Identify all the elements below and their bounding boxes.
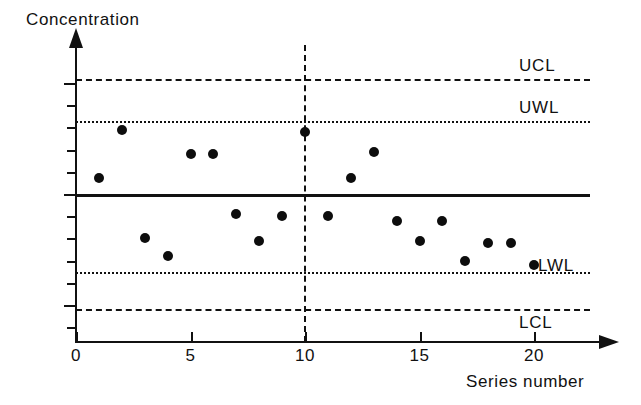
y-tick	[0, 238, 76, 240]
x-axis-line	[75, 341, 603, 343]
x-axis-arrow-icon	[599, 335, 619, 349]
data-point	[208, 149, 218, 159]
y-tick-mark	[64, 83, 76, 85]
y-tick	[0, 105, 76, 107]
x-tick-label: 20	[524, 346, 544, 366]
data-point	[323, 211, 333, 221]
y-tick	[0, 216, 76, 218]
data-point	[163, 251, 173, 261]
limit-line-lwl	[76, 272, 590, 274]
limit-label-lcl: LCL	[519, 313, 553, 333]
y-tick	[0, 261, 76, 263]
y-tick-mark	[64, 305, 76, 307]
x-tick-mark	[76, 332, 78, 342]
data-point	[506, 238, 516, 248]
y-tick: 0	[0, 194, 76, 196]
data-point	[529, 260, 539, 270]
y-tick-mark	[67, 127, 76, 129]
y-tick-mark	[67, 172, 76, 174]
data-point	[117, 125, 127, 135]
y-tick-mark	[67, 261, 76, 263]
y-axis-arrow-icon	[69, 28, 83, 48]
limit-line-ucl	[76, 79, 590, 81]
data-point	[140, 233, 150, 243]
data-point	[277, 211, 287, 221]
phase-divider-line	[304, 45, 306, 342]
limit-label-lwl: LWL	[538, 256, 574, 276]
y-tick-mark	[67, 283, 76, 285]
limit-line-lcl	[76, 309, 590, 311]
data-point	[231, 209, 241, 219]
data-point	[369, 147, 379, 157]
data-point	[415, 236, 425, 246]
data-point	[300, 127, 310, 137]
data-point	[460, 256, 470, 266]
y-tick	[0, 150, 76, 152]
data-point	[392, 216, 402, 226]
data-point	[437, 216, 447, 226]
x-tick-label: 5	[186, 346, 196, 366]
y-tick	[0, 127, 76, 129]
y-tick: - 0.5	[0, 305, 76, 307]
limit-label-ucl: UCL	[519, 56, 555, 76]
y-axis-line	[75, 44, 77, 342]
y-tick	[0, 172, 76, 174]
y-tick: + 0.5	[0, 83, 76, 85]
limit-line-cl	[76, 194, 590, 197]
data-point	[483, 238, 493, 248]
x-tick-label: 0	[71, 346, 81, 366]
y-tick-mark	[67, 327, 76, 329]
x-axis-title: Series number	[466, 372, 584, 392]
x-tick-label: 10	[295, 346, 315, 366]
x-tick-label: 15	[410, 346, 430, 366]
y-axis-title: Concentration	[26, 10, 140, 30]
y-tick-mark	[64, 194, 76, 196]
y-tick-mark	[67, 105, 76, 107]
limit-label-uwl: UWL	[519, 98, 559, 118]
y-tick	[0, 283, 76, 285]
limit-line-uwl	[76, 121, 590, 123]
data-point	[254, 236, 264, 246]
x-tick-mark	[420, 332, 422, 342]
y-tick-mark	[67, 216, 76, 218]
control-chart: Concentration Series number + 0.50- 0.5 …	[0, 0, 641, 405]
y-tick	[0, 327, 76, 329]
data-point	[346, 173, 356, 183]
data-point	[186, 149, 196, 159]
x-tick-mark	[534, 332, 536, 342]
data-point	[94, 173, 104, 183]
y-tick-mark	[67, 150, 76, 152]
x-tick-mark	[191, 332, 193, 342]
y-tick-mark	[67, 238, 76, 240]
